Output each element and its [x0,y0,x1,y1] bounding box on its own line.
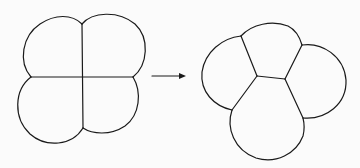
film-bottom-left [232,76,257,110]
film-top-left [241,36,257,76]
film-top-right [285,45,302,79]
bubble-left-arc [202,36,241,110]
arrow-head-icon [179,73,186,79]
final-cluster [202,23,346,160]
film-center [257,76,285,79]
bubble-top-arc [241,23,302,45]
film-vertical [82,24,83,128]
transition-arrow [152,73,186,79]
bubble-bottom-arc [230,110,304,160]
film-bottom-right [285,79,303,118]
bubble-top-left-arc [23,17,82,78]
bubble-bottom-left-arc [18,77,83,143]
initial-cluster [18,14,146,143]
bubble-top-right-arc [82,14,145,77]
bubble-right-arc [302,45,346,119]
diagram-svg [0,0,360,168]
diagram-canvas: Four-bubble cluster rearrangement (T1 tr… [0,0,360,168]
bubble-bottom-right-arc [83,77,138,133]
